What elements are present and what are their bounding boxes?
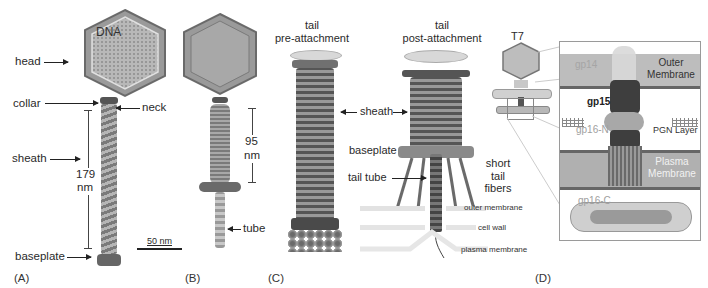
tube-label: tube	[243, 223, 265, 235]
gp16n-domain	[604, 112, 644, 132]
panel-letter-c: (C)	[268, 272, 284, 284]
post-attachment-title: tail post-attachment	[392, 19, 492, 44]
pre-baseplate	[291, 218, 339, 230]
neck-label: neck	[142, 102, 166, 114]
post-contracted-sheath	[410, 77, 462, 151]
length-95-unit: nm	[244, 149, 260, 163]
sheath-arrow-right	[393, 112, 407, 113]
post-tail-cap	[404, 50, 468, 63]
gp16c-core	[590, 210, 672, 224]
collar-shape-b	[212, 97, 228, 103]
baseplate-label: baseplate	[15, 251, 65, 263]
phage-head-empty	[180, 12, 260, 96]
gp16c-label: gp16-C	[578, 196, 611, 206]
phage-head-capsid	[80, 8, 170, 98]
baseplate-label-c: baseplate	[349, 145, 397, 156]
baseplate-shape	[97, 254, 121, 266]
gp16n-label: gp16-N	[576, 125, 609, 135]
cell-wall-label: cell wall	[478, 224, 506, 232]
sheath-shape	[101, 104, 117, 254]
sheath-label-c: sheath	[360, 106, 393, 117]
collar-label: collar	[13, 98, 40, 110]
gp14-label: gp14	[575, 60, 597, 70]
length-179-unit: nm	[77, 181, 93, 195]
head-label: head	[15, 56, 41, 68]
membrane-channel	[608, 146, 642, 186]
panel-letter-d: (D)	[535, 272, 551, 284]
panel-letter-a: (A)	[14, 272, 29, 284]
contracted-sheath-shape	[210, 104, 230, 184]
dna-label: DNA	[96, 26, 121, 38]
tail-tube-label: tail tube	[348, 172, 387, 183]
scale-bar	[137, 248, 182, 250]
post-tail-tube	[430, 154, 442, 232]
gp15-label: gp15	[587, 97, 610, 107]
outer-membrane-band	[360, 206, 425, 211]
pgn-layer-label: PGN Layer	[653, 126, 698, 135]
sheath-arrow	[50, 159, 80, 160]
gp14-channel	[612, 46, 636, 82]
collar-shape	[100, 97, 118, 104]
tube-shape	[215, 192, 225, 248]
outer-membrane-label-d: Outer Membrane	[640, 57, 702, 80]
pre-baseplate-fibers	[288, 230, 342, 252]
sheath-arrow-left	[341, 112, 357, 113]
dimension-tick-bottom-b	[248, 182, 256, 183]
plasma-membrane-label-d: Plasma Membrane	[642, 156, 702, 179]
length-179-value: 179	[76, 168, 95, 182]
tube-arrow	[228, 229, 241, 230]
tail-tube-arrow	[392, 178, 426, 179]
t7-label: T7	[511, 31, 524, 42]
pre-tail-fibers-top	[292, 60, 338, 68]
length-95-value: 95	[245, 135, 258, 149]
neck-arrow	[116, 108, 140, 109]
pre-attachment-title: tail pre-attachment	[272, 19, 352, 44]
pre-extended-sheath	[296, 68, 334, 220]
post-tail-fibers-top	[402, 70, 470, 77]
baseplate-arrow	[67, 257, 91, 258]
collar-arrow	[45, 103, 98, 104]
gp15-complex	[610, 80, 640, 114]
scale-bar-label: 50 nm	[147, 237, 172, 246]
baseplate-shape-b	[199, 182, 241, 192]
panel-letter-b: (B)	[185, 272, 200, 284]
sheath-label: sheath	[12, 153, 47, 165]
head-arrow	[44, 62, 68, 63]
dimension-tick-bottom	[84, 248, 92, 249]
